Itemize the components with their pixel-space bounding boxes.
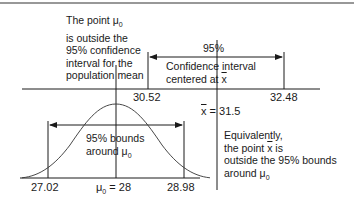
label-30-52: 30.52 — [133, 91, 161, 104]
mu0-value-label: μ0 = 28 — [96, 181, 131, 199]
right-note: Equivalently, the point x is outside the… — [224, 129, 337, 184]
ci-description: Confidence interval centered at x — [166, 60, 256, 85]
left-note: The point μ0 is outside the 95% confiden… — [66, 14, 144, 82]
label-32-48: 32.48 — [270, 91, 298, 104]
xbar-value-label: x = 31.5 — [201, 105, 240, 118]
label-28-98: 28.98 — [167, 181, 195, 194]
label-27-02: 27.02 — [31, 181, 59, 194]
upper-95-label: 95% — [203, 42, 224, 55]
bounds-description: 95% bounds around μ0 — [86, 132, 144, 162]
